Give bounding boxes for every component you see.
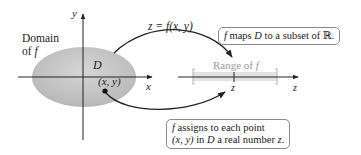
function-label: z = f(x, y) [148, 20, 193, 32]
point-xy [102, 88, 107, 93]
callout-assigns-line1: f assigns to each point [172, 122, 284, 134]
callout-maps-text: maps [227, 30, 254, 41]
callout-assigns-text1: assigns to each point [175, 122, 265, 133]
x-axis-label: x [146, 80, 151, 92]
z-axis-label: z [293, 82, 297, 94]
callout-assigns-text2: in [194, 134, 207, 145]
callout-assigns-line2: (x, y) in D a real number z. [172, 134, 284, 146]
domain-label-var: f [34, 45, 37, 57]
callout-assigns-text3: a real number [215, 134, 278, 145]
range-label: Range of f [213, 59, 259, 71]
mapping-arrow-top [114, 30, 232, 57]
domain-label: Domain of f [22, 32, 59, 58]
domain-label-prefix: of [22, 45, 34, 57]
callout-assigns-set: D [207, 134, 215, 145]
callout-maps-set: D [254, 30, 262, 41]
region-label: D [93, 59, 102, 71]
callout-assigns: f assigns to each point (x, y) in D a re… [166, 119, 290, 149]
callout-maps: f maps D to a subset of ℝ. [218, 27, 340, 45]
point-label: (x, y) [98, 75, 121, 87]
callout-assigns-point: (x, y) [172, 134, 194, 145]
callout-assigns-end: . [282, 134, 285, 145]
y-axis-label: y [72, 7, 77, 19]
range-point-label: z [231, 82, 235, 94]
range-label-prefix: Range of [213, 59, 256, 71]
domain-label-line2: of f [22, 45, 59, 58]
domain-label-line1: Domain [22, 32, 59, 45]
callout-maps-text2: to a subset of ℝ. [262, 30, 334, 41]
range-label-var: f [256, 59, 259, 71]
